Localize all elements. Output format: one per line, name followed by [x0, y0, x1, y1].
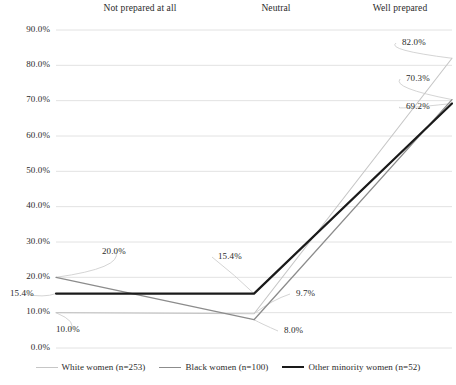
- y-axis-tick-label: 70.0%: [2, 94, 50, 104]
- legend-label: Other minority women (n=52): [308, 362, 420, 372]
- y-axis-tick-label: 60.0%: [2, 130, 50, 140]
- series-lines: [56, 58, 452, 319]
- legend-line-swatch: [282, 366, 304, 368]
- legend-item[interactable]: Other minority women (n=52): [282, 362, 420, 372]
- series-line: [56, 100, 452, 320]
- legend-line-swatch: [159, 367, 181, 368]
- legend-item[interactable]: White women (n=253): [36, 362, 146, 372]
- y-axis-tick-label: 20.0%: [2, 271, 50, 281]
- data-label: 20.0%: [102, 246, 126, 256]
- leader-line: [212, 257, 254, 294]
- y-axis-tick-label: 10.0%: [2, 306, 50, 316]
- data-label: 82.0%: [402, 37, 426, 47]
- y-axis-tick-label: 30.0%: [2, 236, 50, 246]
- data-label: 15.4%: [10, 288, 34, 298]
- y-axis-tick-label: 90.0%: [2, 24, 50, 34]
- leader-line: [254, 320, 278, 331]
- data-label: 10.0%: [56, 324, 80, 334]
- data-label: 70.3%: [406, 73, 430, 83]
- data-label: 15.4%: [218, 251, 242, 261]
- series-line: [56, 103, 452, 293]
- leader-line: [254, 294, 290, 314]
- legend-label: White women (n=253): [62, 362, 146, 372]
- data-label: 9.7%: [296, 288, 315, 298]
- y-axis-tick-label: 50.0%: [2, 165, 50, 175]
- legend-item[interactable]: Black women (n=100): [159, 362, 268, 372]
- leader-lines: [24, 43, 452, 331]
- data-label: 69.2%: [406, 101, 430, 111]
- category-label: Well prepared: [320, 3, 456, 13]
- gridlines: [56, 30, 452, 348]
- series-line: [56, 58, 452, 313]
- line-chart: 0.0%10.0%20.0%30.0%40.0%50.0%60.0%70.0%8…: [0, 0, 456, 385]
- y-axis-tick-label: 80.0%: [2, 59, 50, 69]
- y-axis-tick-label: 40.0%: [2, 200, 50, 210]
- chart-legend: White women (n=253)Black women (n=100)Ot…: [0, 362, 456, 372]
- legend-label: Black women (n=100): [185, 362, 268, 372]
- legend-line-swatch: [36, 367, 58, 368]
- y-axis-tick-label: 0.0%: [2, 342, 50, 352]
- data-label: 8.0%: [284, 325, 303, 335]
